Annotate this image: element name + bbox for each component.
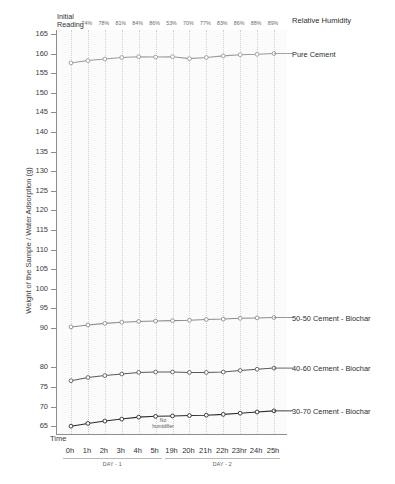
data-point-0-20h xyxy=(188,57,192,61)
data-point-0-0h xyxy=(69,61,73,65)
x-tick-label-4h: 4h xyxy=(133,446,141,455)
initial-reading-label: InitialReading xyxy=(57,13,84,29)
data-point-0-22h xyxy=(221,54,225,58)
humidity-value-4h: 84% xyxy=(132,20,143,26)
data-point-3-24h xyxy=(255,410,259,414)
data-point-2-5h xyxy=(154,370,158,374)
data-point-2-3h xyxy=(120,372,124,376)
data-point-0-21h xyxy=(204,56,208,60)
y-tick-label-160: 160 xyxy=(0,50,48,58)
x-tick-label-21h: 21h xyxy=(199,446,212,455)
data-point-1-20h xyxy=(188,318,192,322)
data-point-2-24h xyxy=(255,367,259,371)
data-point-1-24h xyxy=(255,316,259,320)
data-point-1-22h xyxy=(221,317,225,321)
x-tick-label-19h: 19h xyxy=(165,446,178,455)
x-tick-label-1h: 1h xyxy=(83,446,91,455)
y-tick-label-65: 65 xyxy=(0,422,48,430)
no-humidifier-line-1: humidifier xyxy=(152,424,174,430)
x-tick-label-22h: 22h xyxy=(216,446,229,455)
humidity-value-23hr: 86% xyxy=(234,20,245,26)
humidity-value-21h: 77% xyxy=(200,20,211,26)
data-point-1-2h xyxy=(103,321,107,325)
humidity-value-24h: 88% xyxy=(251,20,262,26)
chart-canvas: InitialReading Relative Humidity 74%78%8… xyxy=(0,0,395,484)
data-point-0-24h xyxy=(255,52,259,56)
day-group-label-2: DAY - 2 xyxy=(213,461,232,467)
data-point-2-22h xyxy=(221,370,225,374)
humidity-value-1h: 74% xyxy=(82,20,93,26)
y-tick-label-140: 140 xyxy=(0,128,48,136)
x-tick-label-25h: 25h xyxy=(267,446,280,455)
humidity-value-3h: 81% xyxy=(115,20,126,26)
data-point-3-3h xyxy=(120,417,124,421)
humidity-value-22h: 83% xyxy=(217,20,228,26)
data-point-1-0h xyxy=(69,325,73,329)
relative-humidity-caption: Relative Humidity xyxy=(292,16,351,25)
data-point-3-22h xyxy=(221,412,225,416)
data-point-2-21h xyxy=(204,371,208,375)
y-tick-label-70: 70 xyxy=(0,403,48,411)
data-point-1-21h xyxy=(204,318,208,322)
data-point-1-19h xyxy=(171,319,175,323)
data-point-1-5h xyxy=(154,319,158,323)
series-label-3: 30-70 Cement - Biochar xyxy=(292,406,370,415)
data-point-0-23hr xyxy=(238,53,242,57)
y-axis-title: Weight of the Sample / Water Adsorption … xyxy=(24,151,33,331)
data-point-0-3h xyxy=(120,56,124,60)
y-tick-label-165: 165 xyxy=(0,30,48,38)
data-point-2-19h xyxy=(171,370,175,374)
day-group-rule-2 xyxy=(165,458,281,459)
x-tick-label-5h: 5h xyxy=(150,446,158,455)
data-point-3-21h xyxy=(204,413,208,417)
data-point-2-0h xyxy=(69,379,73,383)
data-point-1-1h xyxy=(86,323,90,327)
series-label-2: 40-60 Cement - Biochar xyxy=(292,364,370,373)
day-group-label-1: DAY - 1 xyxy=(103,461,122,467)
data-point-0-2h xyxy=(103,57,107,61)
plot-area xyxy=(56,30,287,434)
humidity-value-20h: 70% xyxy=(183,20,194,26)
data-point-2-23hr xyxy=(238,369,242,373)
initial-reading-line-1: Reading xyxy=(57,21,84,29)
data-point-3-2h xyxy=(103,419,107,423)
y-tick-label-75: 75 xyxy=(0,383,48,391)
data-point-2-2h xyxy=(103,374,107,378)
x-tick-label-2h: 2h xyxy=(100,446,108,455)
humidity-value-19h: 53% xyxy=(166,20,177,26)
x-tick-label-20h: 20h xyxy=(182,446,195,455)
data-point-0-4h xyxy=(137,55,141,59)
humidity-value-5h: 86% xyxy=(149,20,160,26)
data-point-1-3h xyxy=(120,320,124,324)
data-point-2-20h xyxy=(188,371,192,375)
x-tick-label-23hr: 23hr xyxy=(232,446,247,455)
data-point-3-0h xyxy=(69,424,73,428)
series-lines xyxy=(57,30,288,434)
x-tick-label-0h: 0h xyxy=(66,446,74,455)
data-point-2-4h xyxy=(137,371,141,375)
data-point-1-23hr xyxy=(238,316,242,320)
y-tick-label-150: 150 xyxy=(0,89,48,97)
day-group-rule-1 xyxy=(63,458,162,459)
x-tick-label-24h: 24h xyxy=(250,446,263,455)
series-label-1: 50-50 Cement - Biochar xyxy=(292,313,370,322)
y-tick-label-80: 80 xyxy=(0,363,48,371)
data-point-0-1h xyxy=(86,59,90,63)
data-point-3-20h xyxy=(188,414,192,418)
x-axis-line xyxy=(56,434,287,435)
series-label-0: Pure Cement xyxy=(292,49,336,58)
data-point-0-19h xyxy=(171,55,175,59)
y-tick-label-145: 145 xyxy=(0,108,48,116)
data-point-3-23hr xyxy=(238,411,242,415)
humidity-value-2h: 78% xyxy=(99,20,110,26)
no-humidifier-annotation: Nohumidifier xyxy=(152,418,174,429)
data-point-3-4h xyxy=(137,415,141,419)
humidity-value-25h: 89% xyxy=(268,20,279,26)
x-axis-title: Time xyxy=(50,434,66,443)
data-point-1-4h xyxy=(137,320,141,324)
data-point-0-5h xyxy=(154,55,158,59)
y-tick-label-155: 155 xyxy=(0,69,48,77)
data-point-3-1h xyxy=(86,422,90,426)
x-tick-label-3h: 3h xyxy=(117,446,125,455)
data-point-2-1h xyxy=(86,376,90,380)
